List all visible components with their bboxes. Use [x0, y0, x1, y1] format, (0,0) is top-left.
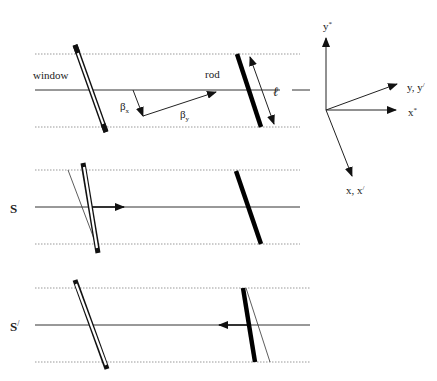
panel-bottom-frame-s-prime: S/	[10, 280, 310, 369]
beta-y-label: βy	[180, 108, 190, 123]
y-yprime-axis	[326, 84, 397, 110]
x-xprime-axis	[326, 110, 352, 176]
window-label: window	[33, 69, 69, 81]
frame-s-prime-label: S/	[10, 319, 20, 334]
rod-label: rod	[205, 68, 220, 80]
x-star-label: x*	[408, 106, 418, 118]
y-star-label: y*	[323, 20, 333, 32]
frame-s-label: S	[10, 201, 17, 216]
relativity-rod-window-diagram: window rod ℓ βx βy y* x* y, y/ x, x/ S	[0, 0, 437, 381]
beta-x-arrow	[133, 90, 143, 116]
panel-top: window rod ℓ βx βy	[33, 45, 310, 132]
panel-middle-frame-s: S	[10, 163, 300, 253]
window-shape	[83, 163, 98, 253]
length-label: ℓ	[273, 84, 279, 99]
y-yprime-label: y, y/	[407, 81, 425, 93]
window-shape	[75, 45, 106, 132]
x-xprime-label: x, x/	[346, 184, 365, 196]
beta-x-label: βx	[120, 100, 130, 115]
coordinate-axes: y* x* y, y/ x, x/	[323, 20, 425, 196]
